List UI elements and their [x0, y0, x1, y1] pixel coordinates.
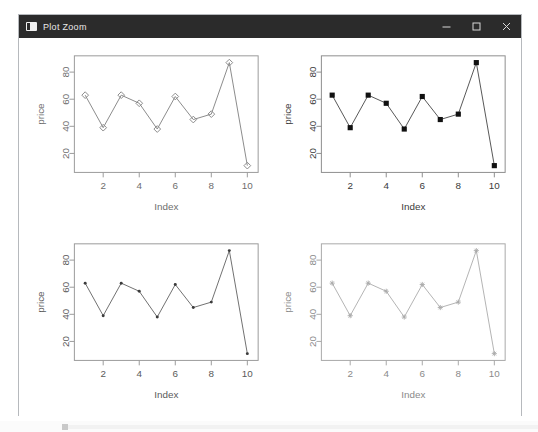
plot-box — [321, 56, 505, 173]
y-tick-label: 20 — [307, 335, 318, 346]
plot-cell-top-right: 20406080246810Indexprice — [270, 42, 517, 230]
data-point[interactable] — [474, 60, 479, 65]
x-tick-label: 4 — [136, 180, 142, 191]
data-point[interactable] — [420, 282, 425, 287]
x-axis-label: Index — [401, 389, 425, 400]
x-tick-label: 2 — [347, 180, 352, 191]
plot-bottom-left[interactable]: 20406080246810Indexprice — [23, 230, 270, 418]
plot-box — [74, 244, 258, 361]
data-point[interactable] — [366, 280, 371, 285]
plot-cell-bottom-right: 20406080246810Indexprice — [270, 230, 517, 418]
data-point[interactable] — [456, 112, 461, 117]
data-point[interactable] — [420, 94, 425, 99]
x-tick-label: 10 — [242, 180, 253, 191]
x-tick-label: 10 — [489, 368, 500, 379]
x-tick-label: 4 — [383, 180, 389, 191]
data-point[interactable] — [348, 125, 353, 130]
x-tick-label: 8 — [456, 180, 462, 191]
x-axis-label: Index — [401, 201, 425, 212]
data-point[interactable] — [348, 313, 353, 318]
y-tick-label: 40 — [307, 308, 318, 319]
y-tick-label: 20 — [60, 335, 71, 346]
y-tick-label: 40 — [307, 120, 318, 131]
x-tick-label: 8 — [209, 180, 215, 191]
data-point[interactable] — [82, 92, 89, 99]
plot-cell-top-left: 20406080246810Indexprice — [23, 42, 270, 230]
data-point[interactable] — [330, 280, 335, 285]
y-tick-label: 80 — [307, 66, 318, 77]
y-tick-label: 20 — [307, 147, 318, 158]
x-tick-label: 6 — [420, 368, 426, 379]
y-tick-label: 40 — [60, 308, 71, 319]
y-tick-label: 80 — [307, 254, 318, 265]
data-point[interactable] — [402, 126, 407, 131]
data-point[interactable] — [366, 93, 371, 98]
x-tick-label: 8 — [209, 368, 215, 379]
data-point[interactable] — [456, 299, 461, 304]
window-titlebar[interactable]: Plot Zoom — [19, 15, 521, 38]
close-icon — [501, 21, 512, 32]
x-tick-label: 10 — [489, 180, 500, 191]
x-tick-label: 2 — [100, 180, 105, 191]
maximize-icon — [471, 21, 482, 32]
x-tick-label: 4 — [383, 368, 389, 379]
y-tick-label: 80 — [60, 254, 71, 265]
data-point[interactable] — [156, 315, 159, 318]
plot-box — [321, 244, 505, 361]
plot-cell-bottom-left: 20406080246810Indexprice — [23, 230, 270, 418]
y-tick-label: 60 — [60, 281, 71, 292]
x-axis-label: Index — [154, 201, 178, 212]
data-line — [332, 250, 494, 353]
plot-top-right[interactable]: 20406080246810Indexprice — [270, 42, 517, 230]
x-tick-label: 2 — [347, 368, 352, 379]
y-axis-label: price — [35, 291, 46, 313]
data-line — [85, 63, 247, 166]
data-point[interactable] — [438, 117, 443, 122]
data-point[interactable] — [492, 351, 497, 356]
plot-zoom-window: Plot Zoom 20406080246810Indexprice 20406… — [18, 14, 522, 416]
y-axis-label: price — [282, 291, 293, 313]
plot-box — [74, 56, 258, 173]
data-point[interactable] — [174, 283, 177, 286]
data-point[interactable] — [138, 290, 141, 293]
x-tick-label: 2 — [100, 368, 105, 379]
minimize-button[interactable] — [431, 15, 461, 38]
y-tick-label: 60 — [307, 93, 318, 104]
data-line — [332, 63, 494, 166]
maximize-button[interactable] — [461, 15, 491, 38]
y-tick-label: 60 — [307, 281, 318, 292]
data-point[interactable] — [228, 249, 231, 252]
y-axis-label: price — [282, 103, 293, 125]
plot-top-left[interactable]: 20406080246810Indexprice — [23, 42, 270, 230]
x-axis-label: Index — [154, 389, 178, 400]
y-tick-label: 20 — [60, 147, 71, 158]
y-tick-label: 60 — [60, 93, 71, 104]
data-point[interactable] — [492, 163, 497, 168]
x-tick-label: 8 — [456, 368, 462, 379]
data-point[interactable] — [246, 352, 249, 355]
data-point[interactable] — [384, 288, 389, 293]
y-tick-label: 80 — [60, 66, 71, 77]
data-point[interactable] — [330, 93, 335, 98]
y-axis-label: price — [35, 103, 46, 125]
data-point[interactable] — [120, 281, 123, 284]
plot-grid-panel: 20406080246810Indexprice 20406080246810I… — [19, 38, 521, 421]
x-tick-label: 6 — [173, 180, 179, 191]
data-point[interactable] — [384, 101, 389, 106]
taskbar-line — [68, 425, 538, 429]
plot-bottom-right[interactable]: 20406080246810Indexprice — [270, 230, 517, 418]
y-tick-label: 40 — [60, 120, 71, 131]
app-window-icon — [26, 22, 37, 31]
window-title: Plot Zoom — [43, 22, 431, 32]
minimize-icon — [441, 21, 452, 32]
data-point[interactable] — [192, 306, 195, 309]
x-tick-label: 10 — [242, 368, 253, 379]
x-tick-label: 6 — [173, 368, 179, 379]
data-point[interactable] — [474, 248, 479, 253]
x-tick-label: 6 — [420, 180, 426, 191]
data-point[interactable] — [210, 300, 213, 303]
x-tick-label: 4 — [136, 368, 142, 379]
data-point[interactable] — [102, 314, 105, 317]
data-point[interactable] — [84, 281, 87, 284]
close-button[interactable] — [491, 15, 521, 38]
